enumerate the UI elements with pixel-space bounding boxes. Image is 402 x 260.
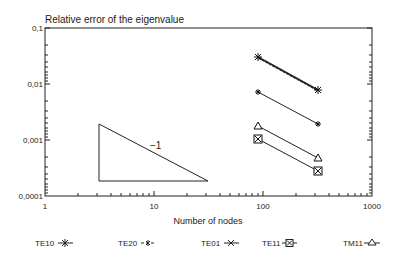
boxed-x-marker-icon xyxy=(254,135,262,143)
series-te20-line xyxy=(258,92,318,124)
series-tm11-line xyxy=(258,126,318,158)
legend-label: TE11 xyxy=(262,239,281,248)
series-te10-line xyxy=(258,57,318,90)
legend: TE10 TE20 TE01 TE11 xyxy=(35,239,380,248)
x-axis-label: Number of nodes xyxy=(173,216,243,226)
legend-item-te10: TE10 xyxy=(35,239,73,248)
legend-item-te01: TE01 xyxy=(201,239,239,248)
triangle-marker-icon xyxy=(364,239,380,245)
y-tick-label: 0,0001 xyxy=(19,192,44,201)
x-tick-label: 100 xyxy=(256,202,270,211)
legend-label: TM11 xyxy=(343,239,363,248)
legend-label: TE10 xyxy=(35,239,55,248)
legend-label: TE20 xyxy=(118,239,138,248)
boxed-x-marker-icon xyxy=(282,240,297,247)
chart-title: Relative error of the eigenvalue xyxy=(45,14,184,25)
legend-item-te11: TE11 xyxy=(262,239,297,248)
slope-triangle xyxy=(99,124,208,181)
legend-label: TE01 xyxy=(201,239,221,248)
x-tick-label: 1 xyxy=(43,202,48,211)
y-tick-label: 0,001 xyxy=(23,136,44,145)
x-marker-icon xyxy=(224,240,239,246)
series-markers xyxy=(254,53,322,175)
x-tick-label: 10 xyxy=(150,202,159,211)
triangle-marker-icon xyxy=(254,122,262,129)
x-axis xyxy=(78,191,367,196)
y-axis xyxy=(45,28,372,193)
plot-area xyxy=(45,28,372,196)
asterisk-marker-icon xyxy=(314,86,322,94)
plus-star-marker-icon xyxy=(255,89,261,95)
slope-label: −1 xyxy=(150,140,162,151)
y-tick-label: 0,1 xyxy=(32,24,44,33)
series-lines xyxy=(258,57,318,171)
x-tick-label: 1000 xyxy=(363,202,381,211)
plus-star-marker-icon xyxy=(141,240,156,246)
series-te11-line xyxy=(258,139,318,171)
eigenvalue-error-chart: Relative error of the eigenvalue xyxy=(0,0,402,260)
triangle-marker-icon xyxy=(314,154,322,161)
asterisk-marker-icon xyxy=(254,53,262,61)
boxed-x-marker-icon xyxy=(314,167,322,175)
legend-item-tm11: TM11 xyxy=(343,239,380,248)
y-tick-label: 0,01 xyxy=(27,80,43,89)
asterisk-marker-icon xyxy=(58,239,73,247)
plus-star-marker-icon xyxy=(315,121,321,127)
legend-item-te20: TE20 xyxy=(118,239,156,248)
series-te01-line xyxy=(258,58,318,91)
